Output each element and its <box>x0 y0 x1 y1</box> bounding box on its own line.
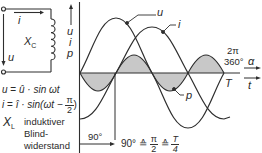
current-label: i <box>18 15 20 26</box>
voltage-label: u <box>8 52 14 63</box>
legend-line-2: Blind- <box>24 128 48 139</box>
formula-lhs: u <box>2 84 8 95</box>
curve-label-p: p <box>186 90 192 101</box>
y-label-p: p <box>67 48 73 59</box>
end-marker-rad: 2π <box>227 45 239 56</box>
end-marker-deg: 360° <box>224 56 244 67</box>
frac-den: 4 <box>171 145 179 153</box>
phase-shift-label: 90° <box>88 131 102 142</box>
legend-symbol: XL <box>3 117 15 132</box>
curve-label-u: u <box>157 7 163 18</box>
equiv-symbol-2: ≙ <box>161 138 169 149</box>
formula-rhs: û · sin ωt <box>19 84 60 95</box>
equiv-frac-pi: π2 <box>150 135 158 153</box>
formula-lhs: i <box>2 99 4 110</box>
phase-arrow <box>80 142 115 146</box>
y-axis-label-arrow <box>69 4 73 25</box>
component-label: XC <box>24 36 36 51</box>
formula-frac: π2 <box>65 96 73 115</box>
legend-subscript: L <box>11 123 15 130</box>
x-axis-label-arrows <box>244 66 261 80</box>
component-subscript: C <box>31 42 36 49</box>
x-label-time: t <box>248 80 251 91</box>
current-formula: i = î · sin(ωt − π2) <box>2 96 77 115</box>
period-label: T <box>225 78 232 89</box>
formula-rhs: î · sin(ωt − <box>16 99 63 110</box>
legend-line-1: induktiver <box>24 116 65 127</box>
formula-eq: = <box>7 99 13 110</box>
frac-den: 2 <box>65 106 73 115</box>
voltage-formula: u = û · sin ωt <box>2 84 60 96</box>
inductor-coil <box>51 19 55 60</box>
formula-eq: = <box>10 84 16 95</box>
legend-line-3: widerstand <box>24 140 70 151</box>
legend-x: X <box>3 115 11 129</box>
frac-den: 2 <box>150 145 158 153</box>
equiv-frac-t: T4 <box>171 135 179 153</box>
equiv-deg: 90° <box>121 138 136 149</box>
formula-close: ) <box>74 99 77 110</box>
curve-label-i: i <box>178 19 180 30</box>
phase-equivalence: 90° ≙ π2 ≙ T4 <box>121 135 179 153</box>
x-label-angle: α <box>248 56 254 67</box>
equiv-symbol-1: ≙ <box>139 138 147 149</box>
